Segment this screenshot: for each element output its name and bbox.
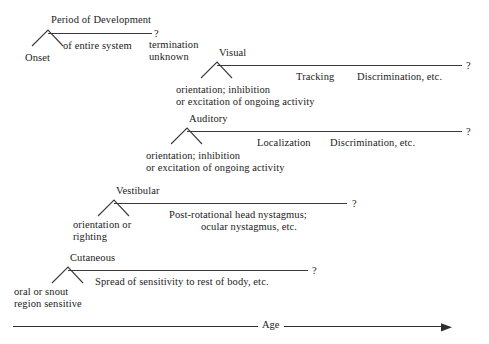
end-note-line1-period-of-development: termination bbox=[149, 39, 199, 51]
caret-marker-period-of-development bbox=[31, 29, 64, 47]
milestone-visual-2: Discrimination, etc. bbox=[357, 71, 442, 83]
onset-note-line1-visual: orientation; inhibition bbox=[176, 84, 270, 96]
timeline-rule-auditory bbox=[187, 131, 462, 132]
onset-note-line1-cutaneous: oral or snout bbox=[14, 286, 68, 298]
milestone-vestibular-2: ocular nystagmus, etc. bbox=[201, 221, 297, 233]
onset-note-line1-vestibular: orientation or bbox=[73, 219, 131, 231]
milestone-vestibular-1: Post-rotational head nystagmus; bbox=[169, 209, 307, 221]
onset-note-line2-visual: or excitation of ongoing activity bbox=[176, 96, 315, 108]
row-title-vestibular: Vestibular bbox=[116, 185, 160, 197]
caret-marker-auditory bbox=[170, 127, 203, 145]
caret-marker-vestibular bbox=[97, 199, 130, 217]
uncertainty-marker-cutaneous: ? bbox=[312, 265, 317, 277]
row-title-period-of-development: Period of Development bbox=[51, 14, 151, 26]
caret-marker-visual bbox=[200, 61, 233, 79]
span-label-period-of-development: of entire system bbox=[63, 40, 132, 52]
milestone-cutaneous-1: Spread of sensitivity to rest of body, e… bbox=[95, 276, 269, 288]
developmental-timeline-diagram: Period of Development ? of entire system… bbox=[0, 0, 489, 344]
timeline-rule-visual bbox=[217, 65, 462, 66]
caret-marker-cutaneous bbox=[51, 266, 84, 284]
age-axis-label: Age bbox=[258, 319, 284, 330]
uncertainty-marker-visual: ? bbox=[466, 60, 471, 72]
milestone-auditory-2: Discrimination, etc. bbox=[330, 137, 415, 149]
uncertainty-marker-period-of-development: ? bbox=[154, 28, 159, 40]
row-title-visual: Visual bbox=[219, 47, 246, 59]
onset-note-line2-cutaneous: region sensitive bbox=[14, 298, 82, 310]
onset-note-line1-auditory: orientation; inhibition bbox=[146, 150, 240, 162]
end-note-line2-period-of-development: unknown bbox=[149, 51, 189, 63]
age-axis-arrowhead-icon bbox=[441, 320, 453, 338]
onset-note-line2-vestibular: righting bbox=[73, 231, 107, 243]
milestone-auditory-1: Localization bbox=[257, 137, 311, 149]
milestone-visual-1: Tracking bbox=[296, 71, 334, 83]
timeline-rule-cutaneous bbox=[68, 270, 308, 271]
uncertainty-marker-vestibular: ? bbox=[352, 198, 357, 210]
timeline-rule-vestibular bbox=[114, 203, 347, 204]
row-title-cutaneous: Cutaneous bbox=[70, 252, 115, 264]
row-title-auditory: Auditory bbox=[189, 113, 228, 125]
onset-label-period-of-development: Onset bbox=[25, 52, 50, 64]
onset-note-line2-auditory: or excitation of ongoing activity bbox=[146, 162, 285, 174]
uncertainty-marker-auditory: ? bbox=[466, 126, 471, 138]
age-axis-line bbox=[13, 326, 445, 327]
